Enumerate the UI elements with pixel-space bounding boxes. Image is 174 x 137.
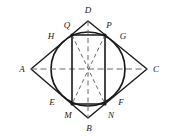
label-M: M [64,111,72,120]
label-N: N [108,111,114,120]
point-Q [71,34,74,37]
geometry-canvas [0,0,174,137]
geometry-figure: A B C D E F G H M N P Q [0,0,174,137]
point-P [104,34,107,37]
label-H: H [48,32,55,41]
label-P: P [106,21,112,30]
point-N [104,103,107,106]
label-A: A [19,65,25,74]
label-B: B [86,124,92,133]
label-Q: Q [64,21,71,30]
label-F: F [118,98,124,107]
label-D: D [85,6,92,15]
label-G: G [120,32,127,41]
label-E: E [49,98,55,107]
label-C: C [153,65,159,74]
point-M [71,103,74,106]
